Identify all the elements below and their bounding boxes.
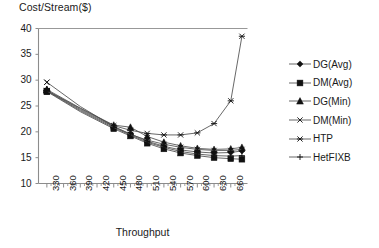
legend-item-label: HetFIXB <box>313 152 351 163</box>
legend-item: DM(Avg) <box>288 74 379 93</box>
series-htp <box>44 34 245 138</box>
legend-item: DG(Min) <box>288 92 379 111</box>
legend-item-label: DG(Avg) <box>313 59 352 70</box>
x-tick-label: 540 <box>168 175 178 191</box>
legend-item: HetFIXB <box>288 148 379 167</box>
x-tick-label: 420 <box>101 175 111 191</box>
legend-item: DG(Avg) <box>288 55 379 74</box>
x-tick-label: 330 <box>51 175 61 191</box>
legend-item-label: DM(Min) <box>313 115 351 126</box>
legend-marker-cross-x-icon <box>288 111 312 129</box>
x-tick-label: 480 <box>134 175 144 191</box>
x-tick-label: 450 <box>118 175 128 191</box>
x-tick-label: 600 <box>201 175 211 191</box>
axis-layer <box>36 29 248 188</box>
legend-marker-plus-icon <box>288 148 312 166</box>
x-tick-label: 510 <box>151 175 161 191</box>
legend-item-label: DM(Avg) <box>313 77 352 88</box>
series-layer <box>43 34 245 162</box>
legend-item: HTP <box>288 129 379 148</box>
x-tick-label: 630 <box>218 175 228 191</box>
y-tick-label: 40 <box>6 24 32 34</box>
x-tick-label: 360 <box>68 175 78 191</box>
y-tick-label: 25 <box>6 101 32 111</box>
y-tick-label: 15 <box>6 153 32 163</box>
legend-marker-filled-square-icon <box>288 74 312 92</box>
legend-item: DM(Min) <box>288 111 379 130</box>
y-tick-label: 35 <box>6 49 32 59</box>
legend-marker-filled-diamond-icon <box>288 55 312 73</box>
x-tick-label: 660 <box>235 175 245 191</box>
y-tick-label: 10 <box>6 179 32 189</box>
legend-marker-asterisk-icon <box>288 130 312 148</box>
legend-item-label: DG(Min) <box>313 96 351 107</box>
y-tick-label: 20 <box>6 127 32 137</box>
x-tick-label: 570 <box>185 175 195 191</box>
y-tick-label: 30 <box>6 75 32 85</box>
x-axis-title: Throughput <box>0 226 285 238</box>
chart-legend: DG(Avg)DM(Avg)DG(Min)DM(Min)HTPHetFIXB <box>288 55 379 167</box>
legend-item-label: HTP <box>313 133 333 144</box>
x-tick-label: 390 <box>84 175 94 191</box>
legend-marker-filled-triangle-icon <box>288 92 312 110</box>
chart-container: Cost/Stream($) 10152025303540 3303603904… <box>0 0 379 248</box>
